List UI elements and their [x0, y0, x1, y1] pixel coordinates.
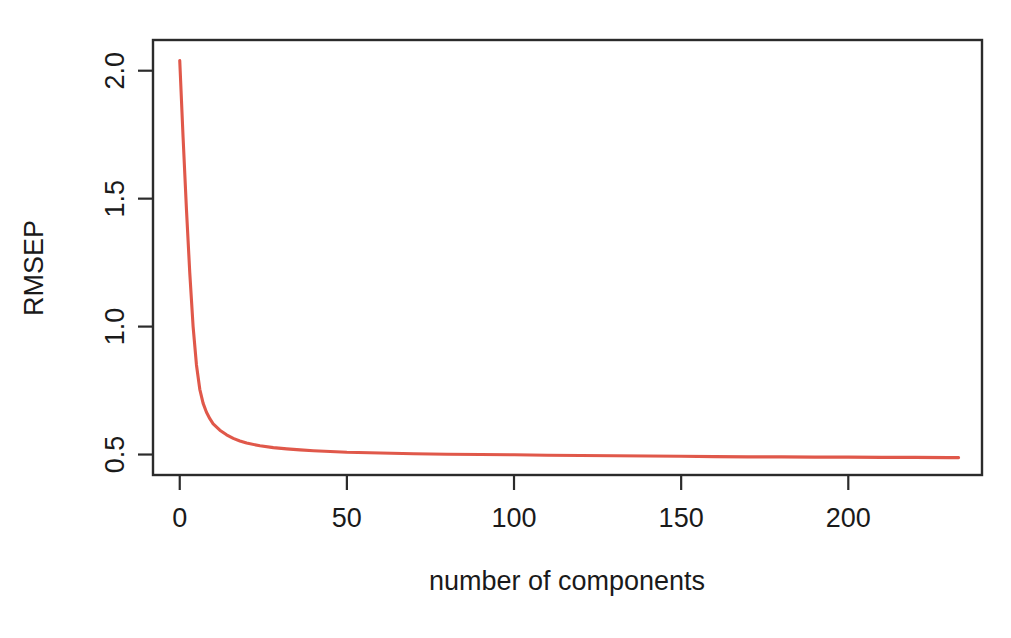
x-tick-label-100: 100	[491, 503, 536, 533]
chart-background	[0, 0, 1011, 638]
x-tick-label-150: 150	[659, 503, 704, 533]
y-axis-title: RMSEP	[19, 220, 49, 316]
y-tick-label-1.0: 1.0	[100, 308, 130, 346]
y-tick-label-0.5: 0.5	[100, 436, 130, 474]
rmsep-line-chart: 050100150200 0.51.01.52.0 number of comp…	[0, 0, 1011, 638]
chart-container: 050100150200 0.51.01.52.0 number of comp…	[0, 0, 1011, 638]
y-tick-label-2.0: 2.0	[100, 52, 130, 90]
x-axis-title: number of components	[429, 566, 705, 596]
y-tick-label-1.5: 1.5	[100, 180, 130, 218]
x-tick-label-200: 200	[826, 503, 871, 533]
x-tick-label-50: 50	[332, 503, 362, 533]
x-tick-label-0: 0	[172, 503, 187, 533]
